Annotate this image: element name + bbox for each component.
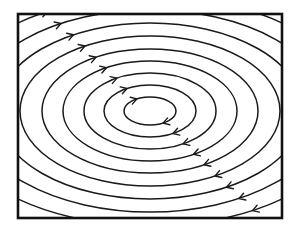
streamline-ellipse: [124, 97, 176, 125]
streamline-ellipse: [63, 61, 237, 161]
streamline-ellipse: [20, 36, 280, 186]
streamline-diagram: [0, 0, 296, 232]
diagram-frame: [18, 14, 282, 218]
flow-arrow-icon: [268, 218, 275, 225]
streamline-ellipse: [0, 0, 296, 232]
flow-arrow-icon: [26, 0, 33, 4]
streamline-ellipse: [42, 49, 258, 173]
streamline-ellipse: [0, 10, 296, 212]
streamline-ellipse: [104, 85, 196, 137]
ellipse-flow-figure: [0, 0, 296, 232]
streamline-ellipses: [0, 0, 296, 232]
